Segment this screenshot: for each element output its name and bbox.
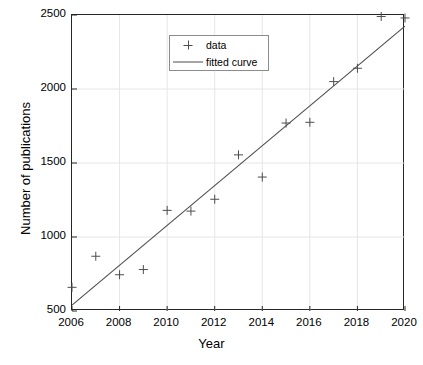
legend-entry-data[interactable]: data [170,36,268,54]
x-tick-label: 2016 [296,317,322,329]
data-point [91,252,100,261]
x-tick-label: 2008 [106,317,132,329]
data-point [68,283,77,292]
y-tick-label: 1500 [40,156,66,168]
y-tick-label: 500 [47,304,66,316]
y-tick-label: 2500 [40,8,66,20]
plot-area: data fitted curve [71,14,404,310]
data-point [305,118,314,127]
data-point [163,206,172,215]
x-axis-title: Year [0,337,423,350]
data-point [139,265,148,274]
x-tick-label: 2006 [58,317,84,329]
line-swatch-icon [170,53,206,71]
chart-legend[interactable]: data fitted curve [169,35,269,71]
x-tick-label: 2018 [344,317,370,329]
data-point [329,77,338,86]
y-axis-title: Number of publications [19,59,32,279]
plus-marker-icon [170,36,206,54]
x-tick-label: 2010 [153,317,179,329]
data-point [258,173,267,182]
legend-label-fitted-curve: fitted curve [206,57,257,68]
chart-figure: data fitted curve 5001000150020002500 20… [0,0,423,365]
x-tick-label: 2012 [201,317,227,329]
data-point [234,150,243,159]
data-point [377,12,386,21]
legend-entry-fitted-curve[interactable]: fitted curve [170,53,268,71]
y-tick-label: 1000 [40,230,66,242]
x-tick-label: 2014 [248,317,274,329]
data-point [282,119,291,128]
data-point [210,195,219,204]
y-tick-label: 2000 [40,82,66,94]
legend-label-data: data [206,40,226,51]
x-tick-label: 2020 [391,317,417,329]
data-point [353,64,362,73]
data-point [401,13,410,22]
data-point [115,270,124,279]
